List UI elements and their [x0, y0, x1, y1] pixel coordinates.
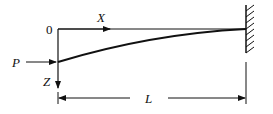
deflected-beam-curve [58, 29, 246, 62]
length-label: L [144, 91, 152, 106]
x-axis-label: X [96, 10, 106, 25]
load-label: P [11, 55, 20, 70]
beam-diagram: 0 X Z P L [0, 0, 273, 114]
origin-label: 0 [46, 22, 53, 37]
fixed-support [246, 5, 254, 53]
z-axis-label: Z [43, 74, 51, 89]
